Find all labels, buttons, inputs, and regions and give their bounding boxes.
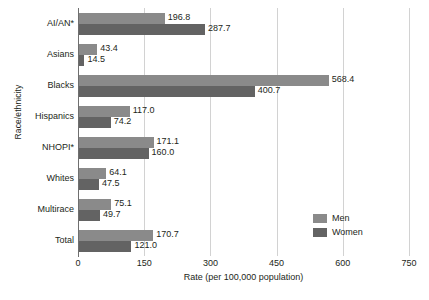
gridline-750 (409, 8, 410, 256)
bar-women (78, 117, 111, 128)
bar-group: 117.074.2 (78, 106, 409, 128)
category-label: Total (6, 235, 74, 245)
x-tick-label: 750 (401, 258, 416, 268)
x-tick-label: 150 (137, 258, 152, 268)
bar-group: 196.8287.7 (78, 13, 409, 35)
value-label: 121.0 (131, 240, 157, 251)
x-tick-label: 0 (75, 258, 80, 268)
legend-item[interactable]: Women (313, 226, 363, 238)
bar-women (78, 241, 131, 252)
value-label: 170.7 (153, 229, 179, 240)
value-label: 400.7 (255, 85, 281, 96)
bar-men (78, 168, 106, 179)
x-tick-label: 600 (335, 258, 350, 268)
category-label: Asians (6, 49, 74, 59)
bar-women (78, 179, 99, 190)
bar-women (78, 24, 205, 35)
category-labels: AI/AN*AsiansBlacksHispanicsNHOPI*WhitesM… (4, 8, 74, 256)
bar-men (78, 199, 111, 210)
legend-label: Men (332, 213, 350, 223)
value-label: 196.8 (165, 12, 191, 23)
value-label: 74.2 (111, 116, 132, 127)
category-label: NHOPI* (6, 142, 74, 152)
bar-group: 171.1160.0 (78, 137, 409, 159)
bar-men (78, 13, 165, 24)
bar-group: 568.4400.7 (78, 75, 409, 97)
bar-men (78, 44, 97, 55)
legend-swatch-women (313, 228, 327, 237)
x-axis-ticks: 0150300450600750 (78, 258, 409, 272)
bar-men (78, 137, 154, 148)
bar-men (78, 106, 130, 117)
value-label: 568.4 (329, 74, 355, 85)
category-label: Whites (6, 173, 74, 183)
value-label: 64.1 (106, 167, 127, 178)
x-tick-label: 300 (203, 258, 218, 268)
category-label: Multirace (6, 204, 74, 214)
y-axis-line (78, 8, 79, 257)
bar-women (78, 148, 149, 159)
category-label: Blacks (6, 80, 74, 90)
value-label: 49.7 (100, 209, 121, 220)
category-label: AI/AN* (6, 18, 74, 28)
legend-swatch-men (313, 214, 327, 223)
legend: MenWomen (313, 212, 363, 240)
x-tick-label: 450 (269, 258, 284, 268)
bar-men (78, 230, 153, 241)
value-label: 287.7 (205, 23, 231, 34)
value-label: 14.5 (84, 54, 105, 65)
legend-item[interactable]: Men (313, 212, 363, 224)
value-label: 160.0 (149, 147, 175, 158)
value-label: 75.1 (111, 198, 132, 209)
bar-chart: Race/ethnicity AI/AN*AsiansBlacksHispani… (0, 0, 429, 300)
value-label: 171.1 (154, 136, 180, 147)
value-label: 117.0 (130, 105, 155, 116)
bar-men (78, 75, 329, 86)
bar-group: 64.147.5 (78, 168, 409, 190)
bar-group: 43.414.5 (78, 44, 409, 66)
legend-label: Women (332, 227, 363, 237)
bar-women (78, 86, 255, 97)
x-axis-title: Rate (per 100,000 population) (78, 272, 409, 282)
value-label: 43.4 (97, 43, 118, 54)
bar-women (78, 210, 100, 221)
category-label: Hispanics (6, 111, 74, 121)
value-label: 47.5 (99, 178, 120, 189)
